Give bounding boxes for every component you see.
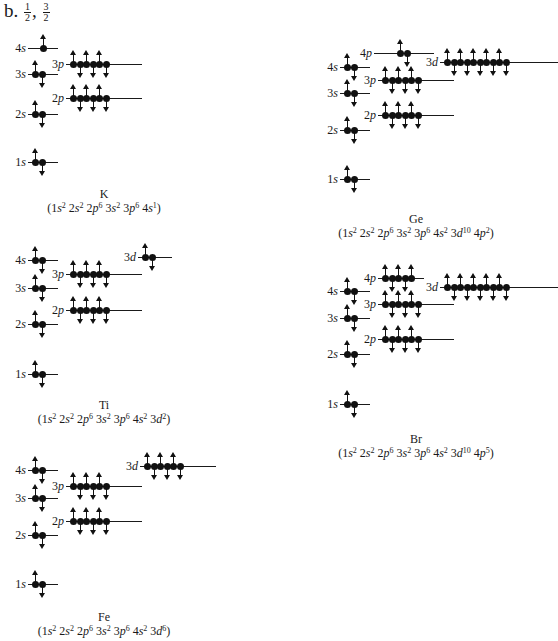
orbital-label: 2p xyxy=(364,109,376,121)
orbital-label: 3s xyxy=(327,87,338,99)
spin-down-arrow-icon xyxy=(354,292,355,301)
spin-up-arrow-icon xyxy=(400,43,401,53)
spin-down-arrow-icon xyxy=(354,319,355,328)
spin-down-arrow-icon xyxy=(106,275,107,284)
spin-down-arrow-icon xyxy=(480,288,481,297)
spin-down-arrow-icon xyxy=(480,63,481,72)
orbital-label: 3p xyxy=(364,298,376,310)
spin-up-arrow-icon xyxy=(35,152,36,162)
spin-down-arrow-icon xyxy=(354,94,355,103)
spin-up-arrow-icon xyxy=(35,278,36,288)
spin-down-arrow-icon xyxy=(405,340,406,349)
electron-configuration: (1s2 2s2 2p6 3s2 3p6 4s2 3d10 4p5) xyxy=(306,446,526,460)
orbital-label: 3d xyxy=(124,251,136,263)
spin-up-arrow-icon xyxy=(43,38,44,48)
spin-down-arrow-icon xyxy=(405,279,406,288)
electron-configuration: (1s2 2s2 2p6 3s2 3p6 4s2 3d2) xyxy=(0,412,214,426)
spin-down-arrow-icon xyxy=(392,116,393,125)
spin-down-arrow-icon xyxy=(42,471,43,480)
spin-up-arrow-icon xyxy=(35,460,36,470)
spin-up-arrow-icon xyxy=(447,277,448,287)
spin-down-arrow-icon xyxy=(93,65,94,74)
spin-down-arrow-icon xyxy=(42,499,43,508)
spin-up-arrow-icon xyxy=(347,394,348,404)
spin-up-arrow-icon xyxy=(99,54,100,64)
element-caption: Ti(1s2 2s2 2p6 3s2 3p6 4s2 3d2) xyxy=(0,398,214,426)
spin-up-arrow-icon xyxy=(398,70,399,80)
spin-up-arrow-icon xyxy=(86,511,87,521)
orbital-label: 4p xyxy=(360,47,372,59)
orbital-label: 2s xyxy=(15,529,26,541)
spin-up-arrow-icon xyxy=(385,268,386,278)
spin-down-arrow-icon xyxy=(418,340,419,349)
spin-up-arrow-icon xyxy=(347,308,348,318)
spin-down-arrow-icon xyxy=(407,54,408,63)
orbital-label: 3s xyxy=(327,312,338,324)
spin-up-arrow-icon xyxy=(35,314,36,324)
spin-up-arrow-icon xyxy=(473,277,474,287)
spin-up-arrow-icon xyxy=(347,57,348,67)
orbital-label: 3d xyxy=(426,281,438,293)
orbital-label: 3d xyxy=(126,460,138,472)
spin-down-arrow-icon xyxy=(106,99,107,108)
spin-up-arrow-icon xyxy=(145,247,146,257)
spin-down-arrow-icon xyxy=(42,585,43,594)
spin-up-arrow-icon xyxy=(499,52,500,62)
spin-up-arrow-icon xyxy=(447,52,448,62)
orbital-label: 2s xyxy=(327,124,338,136)
spin-up-arrow-icon xyxy=(73,88,74,98)
spin-down-arrow-icon xyxy=(392,81,393,90)
orbital-label: 4s xyxy=(15,254,26,266)
element-symbol: Br xyxy=(306,432,526,446)
spin-up-arrow-icon xyxy=(347,169,348,179)
spin-up-arrow-icon xyxy=(411,329,412,339)
spin-down-arrow-icon xyxy=(354,131,355,140)
spin-down-arrow-icon xyxy=(167,467,168,476)
spin-up-arrow-icon xyxy=(86,88,87,98)
spin-down-arrow-icon xyxy=(80,65,81,74)
spin-up-arrow-icon xyxy=(35,104,36,114)
spin-down-arrow-icon xyxy=(42,325,43,334)
spin-down-arrow-icon xyxy=(454,63,455,72)
orbital-label: 3p xyxy=(52,58,64,70)
spin-up-arrow-icon xyxy=(73,511,74,521)
spin-down-arrow-icon xyxy=(405,81,406,90)
spin-down-arrow-icon xyxy=(418,116,419,125)
spin-down-arrow-icon xyxy=(354,355,355,364)
spin-up-arrow-icon xyxy=(398,329,399,339)
orbital-label: 3d xyxy=(426,56,438,68)
spin-up-arrow-icon xyxy=(73,264,74,274)
spin-down-arrow-icon xyxy=(42,75,43,84)
electron-configuration: (1s2 2s2 2p6 3s2 3p6 4s1) xyxy=(0,201,214,215)
spin-up-arrow-icon xyxy=(385,294,386,304)
orbital-label: 3p xyxy=(52,480,64,492)
orbital-label: 4s xyxy=(327,61,338,73)
spin-up-arrow-icon xyxy=(486,277,487,287)
spin-up-arrow-icon xyxy=(398,268,399,278)
spin-up-arrow-icon xyxy=(99,476,100,486)
element-caption: Ge(1s2 2s2 2p6 3s2 3p6 4s2 3d10 4p2) xyxy=(306,212,526,240)
spin-down-arrow-icon xyxy=(154,467,155,476)
element-symbol: Ti xyxy=(0,398,214,412)
spin-down-arrow-icon xyxy=(80,311,81,320)
spin-down-arrow-icon xyxy=(80,522,81,531)
spin-up-arrow-icon xyxy=(73,300,74,310)
orbital-label: 2p xyxy=(52,515,64,527)
spin-up-arrow-icon xyxy=(460,277,461,287)
spin-down-arrow-icon xyxy=(106,311,107,320)
spin-up-arrow-icon xyxy=(73,476,74,486)
spin-down-arrow-icon xyxy=(392,279,393,288)
element-symbol: Fe xyxy=(0,610,214,624)
spin-down-arrow-icon xyxy=(467,288,468,297)
spin-down-arrow-icon xyxy=(80,99,81,108)
spin-up-arrow-icon xyxy=(35,574,36,584)
spin-up-arrow-icon xyxy=(398,105,399,115)
spin-down-arrow-icon xyxy=(506,63,507,72)
fraction-one-half: 1 2 xyxy=(24,2,31,23)
spin-up-arrow-icon xyxy=(86,300,87,310)
orbital-label: 2p xyxy=(52,92,64,104)
spin-down-arrow-icon xyxy=(418,305,419,314)
element-caption: K(1s2 2s2 2p6 3s2 3p6 4s1) xyxy=(0,187,214,215)
spin-down-arrow-icon xyxy=(354,68,355,77)
spin-up-arrow-icon xyxy=(160,456,161,466)
